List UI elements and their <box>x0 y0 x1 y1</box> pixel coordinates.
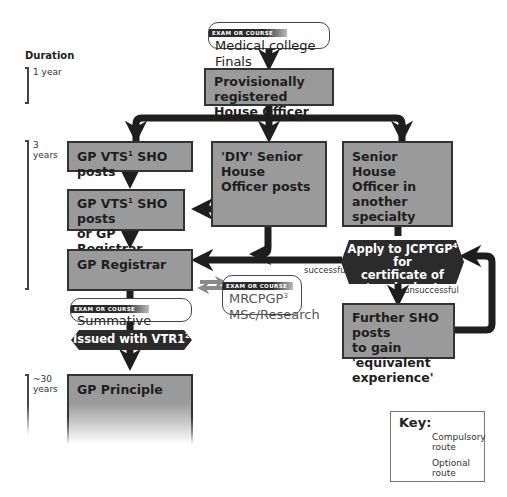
node-summative-assessment: EXAM OR COURSE Summative assessment <box>70 298 192 322</box>
arrow-diy-to-registrar <box>258 226 268 254</box>
duration-bracket-1 <box>25 67 29 104</box>
node-gp-registrar: GP Registrar <box>67 249 193 291</box>
key-optional-label: Optional route <box>432 458 470 478</box>
duration-label-2: 3 years <box>33 140 58 160</box>
node-apply-jcptgp: Apply to JCPTGP4 for certificate of 'equ… <box>341 240 464 284</box>
node-house-officer: Provisionally registered House Officer <box>204 68 334 106</box>
duration-bracket-2 <box>25 140 29 290</box>
node-vtr1: Issued with VTR12 <box>71 330 192 350</box>
key-compulsory-label: Compulsory route <box>432 432 486 452</box>
legend-key: Key: Compulsory route Optional route <box>390 411 485 482</box>
node-mrcpgp-msc: EXAM OR COURSE MRCPGP3 MSc/Research <box>222 275 302 315</box>
label-unsuccessful: unsuccessful <box>404 285 459 295</box>
node-further-sho: Further SHO posts to gain 'equivalent ex… <box>342 303 455 359</box>
duration-bracket-3 <box>25 374 29 434</box>
node-diy-sho: 'DIY' Senior House Officer posts <box>211 141 327 227</box>
node-gp-vts-sho: GP VTS1 SHO posts <box>67 141 193 172</box>
node-gp-vts-or-registrar: GP VTS1 SHO posts or GP Registrar <box>67 189 185 231</box>
exam-tag: EXAM OR COURSE <box>209 29 287 37</box>
node-sho-other-specialty: Senior House Officer in another specialt… <box>342 141 453 227</box>
key-title: Key: <box>399 415 431 430</box>
duration-title: Duration <box>25 50 74 61</box>
duration-label-1: 1 year <box>33 67 62 77</box>
node-medical-finals: EXAM OR COURSE Medical college Finals <box>208 22 330 49</box>
node-gp-principle: GP Principle <box>67 374 193 444</box>
duration-label-3: ~30 years <box>33 374 58 394</box>
gp-career-flowchart: Duration 1 year 3 years ~30 years EXAM O… <box>0 0 507 497</box>
label-successful: successful <box>304 265 348 275</box>
